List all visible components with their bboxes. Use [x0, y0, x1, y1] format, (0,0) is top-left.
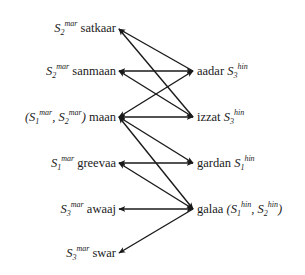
node-satkaar: S2mar satkaar	[54, 21, 116, 35]
word-sanmaan: sanmaan	[72, 64, 116, 78]
sense-symbol: S3hin	[227, 64, 247, 78]
word-gardan: gardan	[197, 156, 231, 170]
edge-greevaa-galaa	[119, 163, 193, 209]
sense-mapping-diagram: S2mar satkaar S2mar sanmaan (S1mar, S2ma…	[0, 0, 305, 275]
sense-symbol: S1mar	[51, 156, 74, 170]
node-swar: S3mar swar	[66, 246, 116, 260]
sense-symbol-group: (S1mar, S2mar)	[25, 110, 86, 124]
word-galaa: galaa	[197, 202, 223, 216]
word-aadar: aadar	[197, 64, 224, 78]
sense-symbol-group: (S1hin, S2hin)	[227, 202, 283, 216]
edge-aadar-satkaar	[119, 29, 193, 71]
edges-layer	[0, 0, 305, 275]
sense-symbol: S3mar	[61, 202, 84, 216]
word-greevaa: greevaa	[77, 156, 116, 170]
word-awaaj: awaaj	[87, 202, 116, 216]
edge-galaa-swar	[119, 209, 193, 253]
node-sanmaan: S2mar sanmaan	[46, 64, 116, 78]
sense-symbol: S1hin	[234, 156, 254, 170]
sense-symbol: S2mar	[46, 64, 69, 78]
node-aadar: aadar S3hin	[197, 64, 248, 78]
sense-symbol: S3hin	[224, 110, 244, 124]
node-greevaa: S1mar greevaa	[51, 156, 116, 170]
node-maan: (S1mar, S2mar) maan	[25, 110, 116, 124]
word-satkaar: satkaar	[81, 21, 116, 35]
node-gardan: gardan S1hin	[197, 156, 255, 170]
word-swar: swar	[92, 246, 116, 260]
sense-symbol: S3mar	[66, 246, 89, 260]
word-maan: maan	[89, 110, 116, 124]
edge-izzat-satkaar	[119, 29, 193, 117]
edge-maan-gardan	[119, 117, 193, 163]
node-galaa: galaa (S1hin, S2hin)	[197, 202, 282, 216]
word-izzat: izzat	[197, 110, 221, 124]
node-izzat: izzat S3hin	[197, 110, 244, 124]
node-awaaj: S3mar awaaj	[61, 202, 116, 216]
sense-symbol: S2mar	[54, 21, 77, 35]
